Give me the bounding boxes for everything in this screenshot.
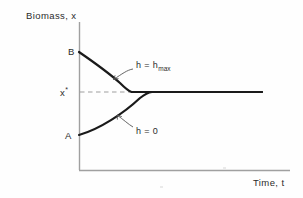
series-start-label-a: A xyxy=(65,131,72,141)
x-axis-label: Time, t xyxy=(253,178,284,188)
scan-speckle xyxy=(160,186,163,188)
equilibrium-tick-label: x* xyxy=(60,86,68,98)
y-axis-label: Biomass, x xyxy=(26,11,76,21)
figure-canvas: Biomass, x Time, t B A x* h = hmax h = 0 xyxy=(0,0,303,198)
plot-svg xyxy=(0,0,303,198)
equilibrium-star: * xyxy=(65,86,68,93)
series-start-label-b: B xyxy=(68,47,75,57)
annotation-h-max: h = hmax xyxy=(136,61,171,72)
scan-speckle xyxy=(223,167,226,169)
annotation-h-zero: h = 0 xyxy=(136,127,158,136)
annotation-h-max-subscript: max xyxy=(158,65,170,72)
curve-h-zero xyxy=(79,92,262,135)
leader-line-h-zero xyxy=(117,115,133,127)
leader-line-h-max xyxy=(114,69,134,80)
annotation-h-max-text: h = h xyxy=(136,60,158,70)
